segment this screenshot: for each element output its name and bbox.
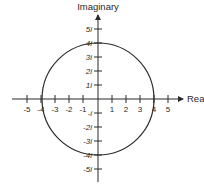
y-tick-label: 1i <box>86 81 92 90</box>
y-tick-label: 4i <box>86 39 92 48</box>
x-tick-label: -5 <box>23 105 31 114</box>
y-tick-label: 5i <box>86 25 92 34</box>
y-tick-label: -3i <box>83 137 92 146</box>
x-tick-label: -3 <box>51 105 59 114</box>
x-tick-label: 3 <box>138 105 143 114</box>
x-tick-label: 5 <box>166 105 171 114</box>
y-tick-label: 3i <box>86 53 92 62</box>
x-tick-label: -2 <box>65 105 73 114</box>
y-tick-label: -2i <box>83 123 92 132</box>
y-tick-label: -5i <box>83 165 92 174</box>
x-tick-label: 4 <box>152 105 157 114</box>
x-tick-label: -4 <box>37 105 45 114</box>
x-tick-label: 1 <box>110 105 115 114</box>
x-tick-label: -1 <box>79 105 87 114</box>
y-tick-label: 2i <box>85 67 92 76</box>
y-tick-label: -4i <box>83 151 92 160</box>
imaginary-axis-label: Imaginary <box>77 1 119 12</box>
real-axis-label: Rea <box>187 93 204 104</box>
complex-plane-diagram: -5 -4 -3 -2 -1 1 2 3 4 5 5i 4i 3i 2i 1i … <box>0 0 204 190</box>
y-tick-label: -i <box>88 109 93 118</box>
x-tick-label: 2 <box>124 105 129 114</box>
